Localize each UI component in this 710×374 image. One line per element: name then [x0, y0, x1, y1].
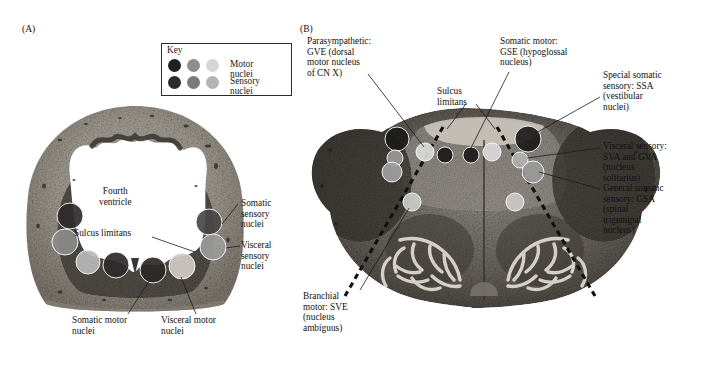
nucleus-visceral-sensory-right — [200, 234, 226, 260]
nucleus-spinal-trigeminal-left — [382, 162, 402, 182]
label-general-somatic-sensory-gsa: General somatic sensory: GSA (spinal tri… — [603, 183, 664, 236]
label-visceral-motor-nuclei: Visceral motor nuclei — [161, 315, 216, 336]
panel-b-tag: (B) — [300, 24, 313, 34]
nucleus-vestibular-right — [515, 126, 541, 152]
key-dot-motor-medium — [187, 59, 200, 72]
nucleus-somatic-sensory-right — [196, 209, 222, 235]
label-somatic-sensory-nuclei: Somatic sensory nuclei — [241, 198, 271, 230]
label-visceral-sensory-sva-gva: Visceral sensory: SVA and GVA (nucleus s… — [603, 141, 667, 183]
key-title: Key — [167, 45, 183, 55]
nucleus-vestibular-left — [385, 127, 409, 151]
nucleus-ambiguus-left — [403, 193, 421, 211]
nucleus-hypoglossal-left — [437, 147, 453, 163]
key-label-sensory: Sensory nuclei — [230, 76, 260, 96]
figure-root: (A) (B) Key Motor nuclei Sensory nuclei … — [0, 0, 710, 374]
key-dot-sensory-light — [206, 76, 219, 89]
label-sulcus-limitans-a: Sulcus limitans — [74, 228, 131, 239]
panel-a-tag: (A) — [22, 24, 35, 34]
nucleus-somatic-motor-mid-r — [140, 257, 166, 283]
label-branchial-motor-sve: Branchial motor: SVE (nucleus ambiguus) — [303, 291, 348, 333]
nucleus-visceral-motor-right — [169, 253, 195, 279]
label-special-somatic-sensory-ssa: Special somatic sensory: SSA (vestibular… — [603, 70, 662, 112]
key-legend: Key Motor nuclei Sensory nuclei — [161, 43, 292, 96]
label-somatic-motor-gse: Somatic motor: GSE (hypoglossal nucleus) — [500, 36, 567, 68]
nucleus-hypoglossal-right — [463, 147, 479, 163]
nucleus-visceral-sensory-left — [76, 250, 100, 274]
key-dot-sensory-medium — [187, 76, 200, 89]
nucleus-dorsal-motor-vagus-right — [483, 143, 501, 161]
label-fourth-ventricle: Fourth ventricle — [99, 186, 132, 207]
nucleus-spinal-trigeminal-right — [522, 161, 544, 183]
nucleus-somatic-motor-mid-l — [103, 252, 129, 278]
nucleus-dorsal-motor-vagus-left — [416, 143, 434, 161]
key-dot-motor-light — [206, 59, 219, 72]
label-sulcus-limitans-b: Sulcus limitans — [437, 86, 467, 107]
label-somatic-motor-nuclei: Somatic motor nuclei — [72, 315, 127, 336]
key-dot-sensory-dark — [168, 76, 181, 89]
key-dot-motor-dark — [168, 59, 181, 72]
nucleus-somatic-motor-left — [57, 203, 83, 229]
nucleus-ambiguus-right — [506, 193, 524, 211]
label-parasympathetic-gve: Parasympathetic: GVE (dorsal motor nucle… — [307, 36, 371, 78]
label-visceral-sensory-nuclei: Visceral sensory nuclei — [241, 240, 271, 272]
